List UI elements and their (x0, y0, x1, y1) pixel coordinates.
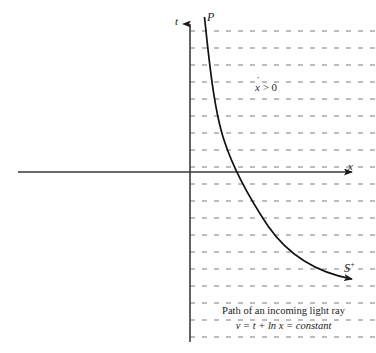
dashed-gridlines (190, 31, 376, 337)
curve-start-label: P (207, 11, 214, 23)
t-axis-label: t (175, 16, 178, 27)
region-variable: ˙ x (255, 82, 260, 93)
region-relation: > 0 (260, 81, 277, 93)
caption-line-1: Path of an incoming light ray (196, 304, 371, 318)
dot-accent-icon: ˙ (256, 76, 259, 86)
x-axis-label: x (348, 161, 353, 172)
null-infinity-superscript: + (350, 260, 355, 269)
spacetime-diagram-figure: t x P ˙ x > 0 S+ Path of an incoming lig… (0, 0, 376, 353)
diagram-canvas (0, 0, 376, 353)
light-ray-curve (205, 17, 353, 279)
region-label: ˙ x > 0 (255, 82, 277, 93)
caption-line-2: v = t + ln x = constant (196, 319, 371, 333)
null-infinity-label: S+ (344, 261, 355, 274)
